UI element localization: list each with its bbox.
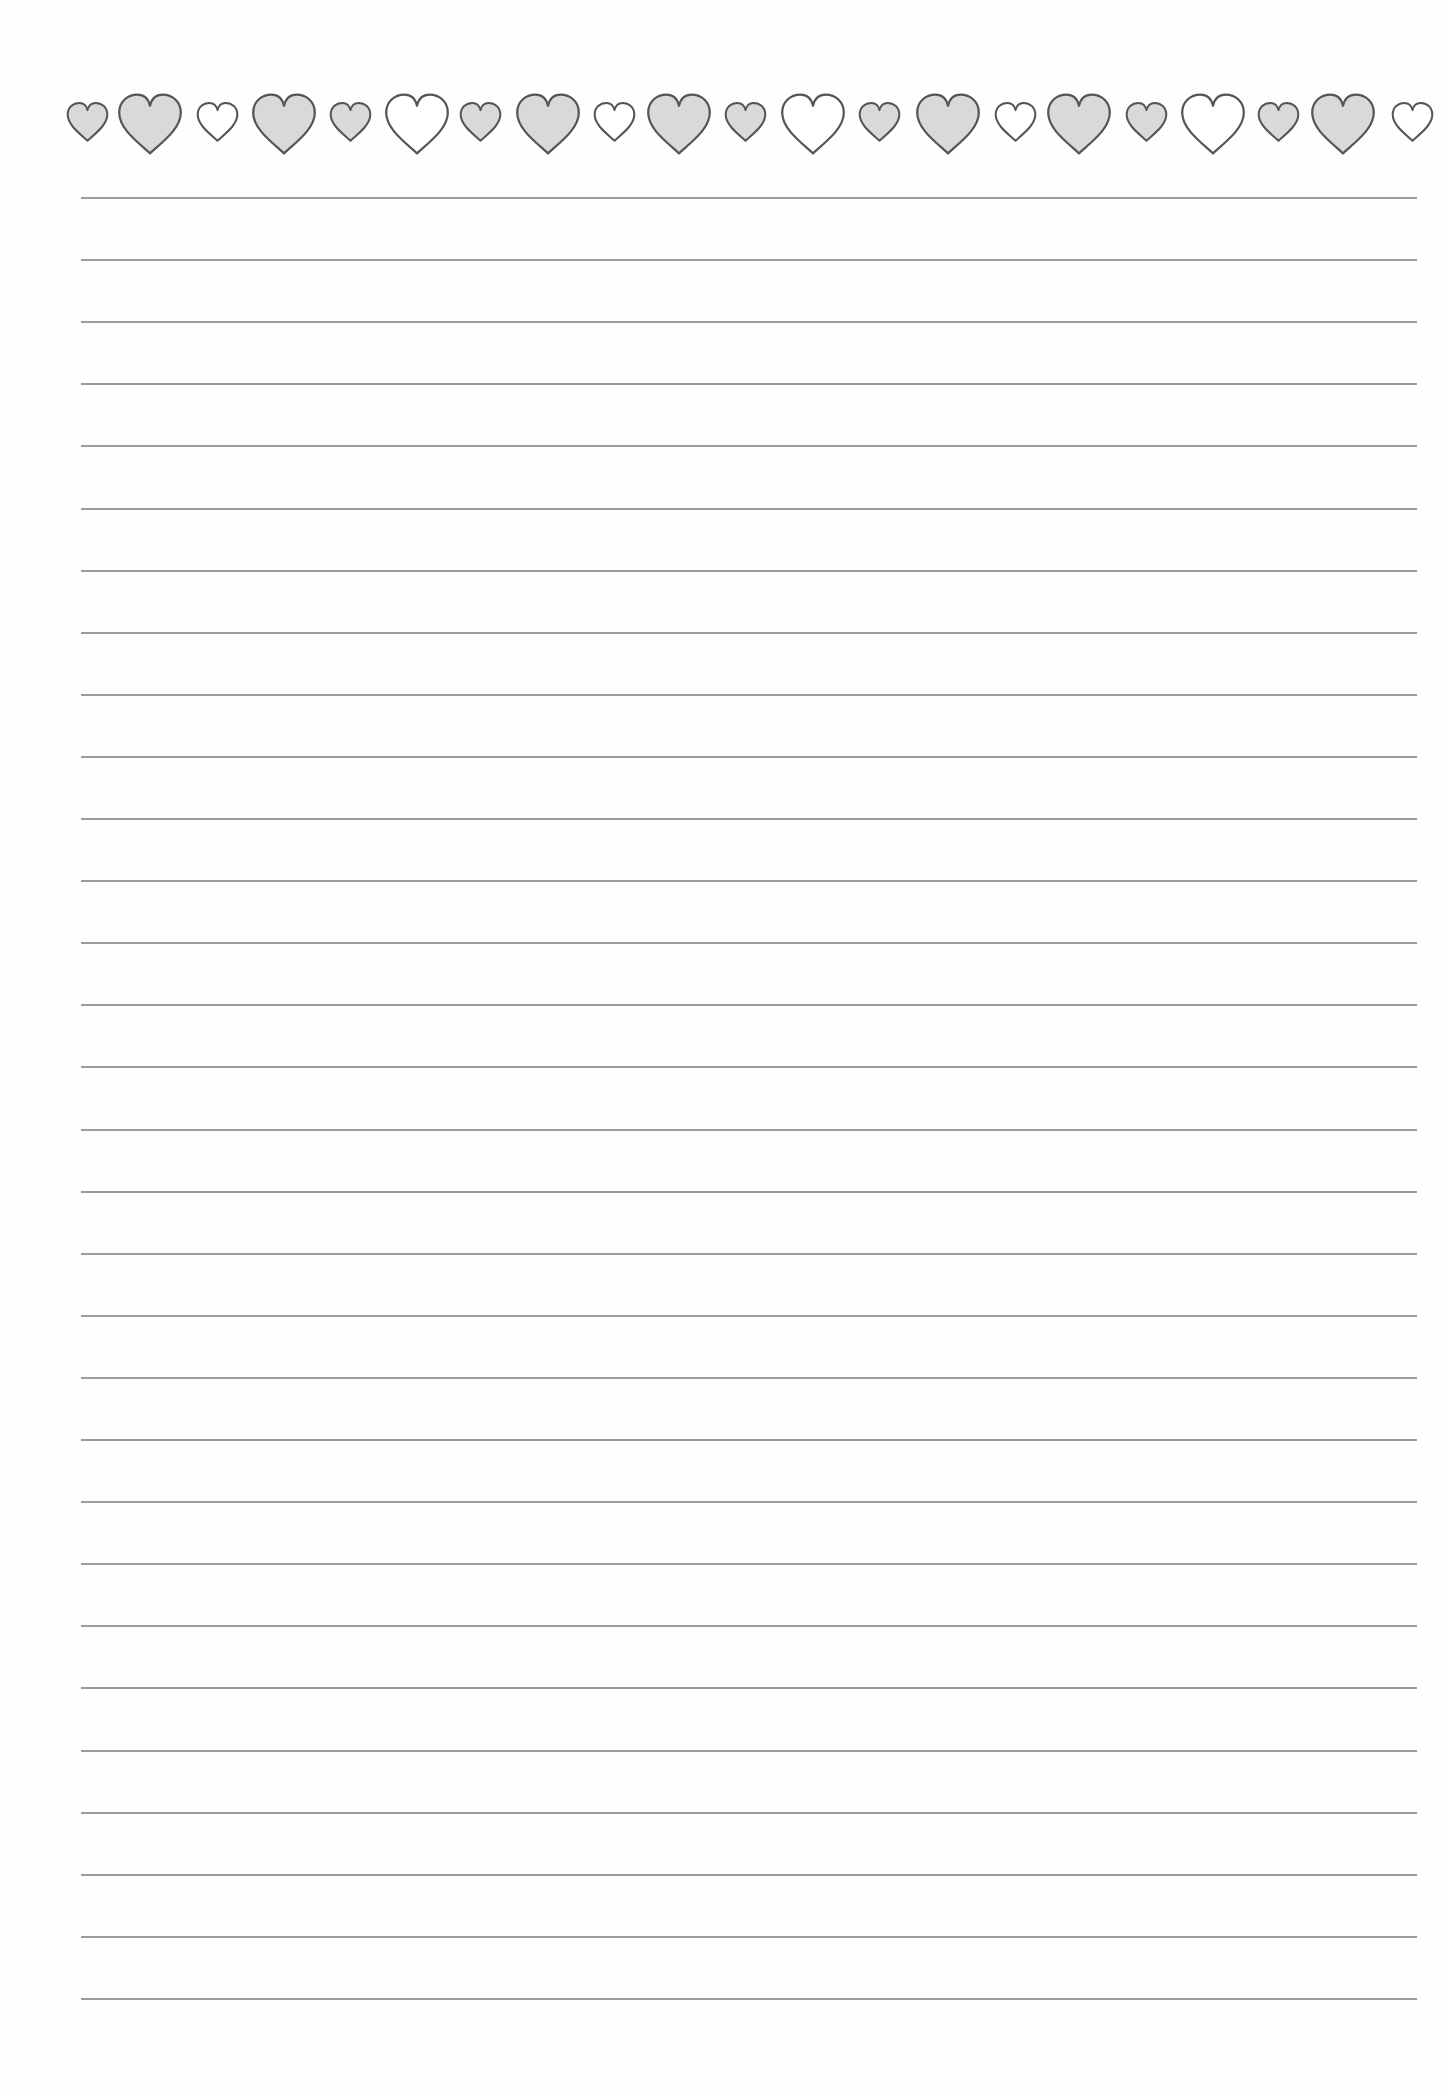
ruled-line [81, 942, 1417, 944]
ruled-line [81, 1998, 1417, 2000]
ruled-lines [0, 0, 1445, 2092]
ruled-line [81, 197, 1417, 199]
ruled-line [81, 880, 1417, 882]
lined-paper-page [0, 0, 1445, 2092]
ruled-line [81, 1066, 1417, 1068]
ruled-line [81, 1377, 1417, 1379]
ruled-line [81, 383, 1417, 385]
ruled-line [81, 1936, 1417, 1938]
ruled-line [81, 1129, 1417, 1131]
ruled-line [81, 445, 1417, 447]
ruled-line [81, 259, 1417, 261]
ruled-line [81, 1750, 1417, 1752]
ruled-line [81, 1812, 1417, 1814]
ruled-line [81, 1563, 1417, 1565]
ruled-line [81, 694, 1417, 696]
ruled-line [81, 508, 1417, 510]
ruled-line [81, 1439, 1417, 1441]
ruled-line [81, 1191, 1417, 1193]
ruled-line [81, 1004, 1417, 1006]
ruled-line [81, 818, 1417, 820]
ruled-line [81, 1315, 1417, 1317]
ruled-line [81, 756, 1417, 758]
ruled-line [81, 1625, 1417, 1627]
ruled-line [81, 321, 1417, 323]
ruled-line [81, 1253, 1417, 1255]
ruled-line [81, 1874, 1417, 1876]
ruled-line [81, 1501, 1417, 1503]
ruled-line [81, 1687, 1417, 1689]
ruled-line [81, 632, 1417, 634]
ruled-line [81, 570, 1417, 572]
